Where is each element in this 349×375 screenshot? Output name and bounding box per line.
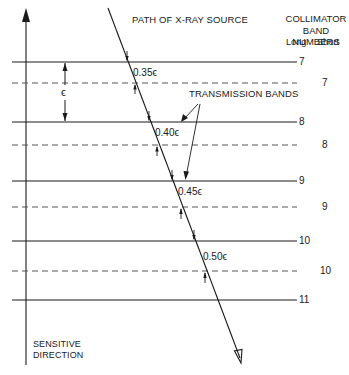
path-of-xray-source-label: PATH OF X-RAY SOURCE — [132, 14, 248, 25]
short-column-header: Short — [317, 37, 339, 48]
epsilon-arrow-up-icon — [63, 63, 68, 71]
collimator-header-line1: COLLIMATOR — [283, 13, 349, 25]
xray-source-path — [108, 8, 242, 363]
transmission-leaders — [181, 104, 200, 180]
epsilon-arrow-down-icon — [63, 113, 68, 121]
long-band-number-9: 9 — [299, 175, 305, 186]
arrow-up-icon — [155, 146, 158, 152]
short-band-number-10: 10 — [320, 265, 331, 276]
arrow-up-icon — [133, 84, 136, 90]
sensitive-direction-line2: DIRECTION — [33, 350, 83, 361]
arrow-up-icon — [203, 272, 206, 278]
arrow-up-icon — [179, 208, 182, 214]
band-width-10: 0.50ϵ — [203, 251, 227, 262]
band-width-7: 0.35ϵ — [133, 67, 157, 78]
sensitive-direction-line1: SENSITIVE — [33, 339, 83, 350]
sensitive-direction-label: SENSITIVE DIRECTION — [33, 339, 83, 361]
diagram-canvas — [0, 0, 349, 375]
short-band-number-9: 9 — [322, 201, 328, 212]
band-width-9: 0.45ϵ — [178, 186, 202, 197]
short-band-number-8: 8 — [322, 139, 328, 150]
short-band-lines — [12, 83, 297, 271]
long-band-number-10: 10 — [299, 235, 310, 246]
short-band-number-7: 7 — [322, 77, 328, 88]
path-arrowhead-icon — [235, 350, 243, 364]
transmission-bands-label: TRANSMISSION BANDS — [189, 88, 298, 99]
leader-arrow-icon — [184, 171, 190, 180]
long-band-number-8: 8 — [299, 116, 305, 127]
long-column-header: Long — [286, 37, 306, 48]
axis-arrow-up-icon — [22, 8, 30, 22]
long-band-number-11: 11 — [299, 294, 309, 305]
long-band-number-7: 7 — [299, 56, 305, 67]
band-width-8: 0.40ϵ — [155, 127, 179, 138]
epsilon-label: ϵ — [61, 87, 66, 98]
